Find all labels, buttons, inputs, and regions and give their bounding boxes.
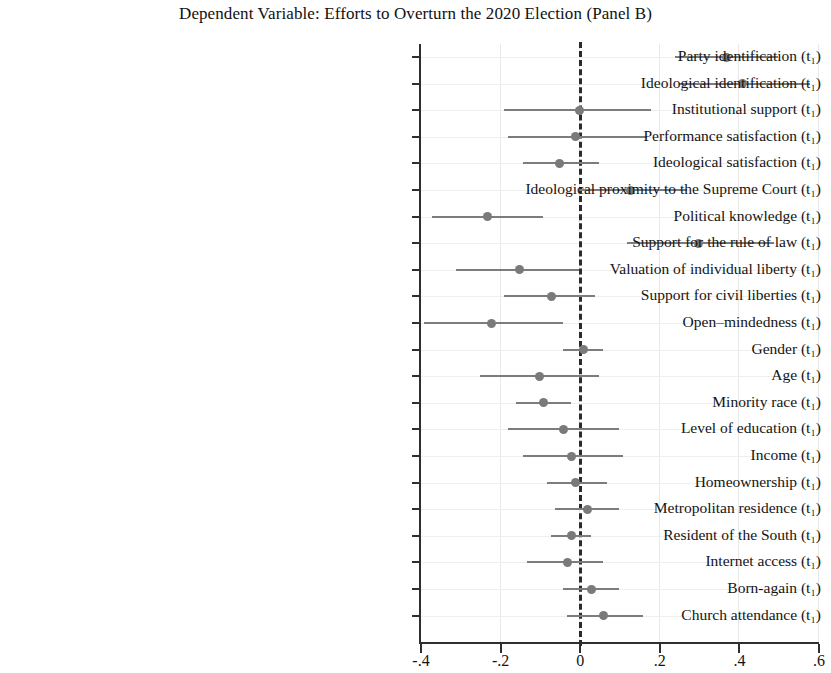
- y-axis-label: Resident of the South (t₁): [423, 527, 831, 543]
- y-axis-tick: [412, 136, 420, 138]
- y-axis-label: Political knowledge (t₁): [423, 208, 831, 224]
- y-axis-label: Open–mindedness (t₁): [423, 314, 831, 330]
- y-axis-tick: [412, 189, 420, 191]
- y-axis-label: Ideological proximity to the Supreme Cou…: [423, 181, 831, 197]
- y-axis-label: Income (t₁): [423, 447, 831, 463]
- y-axis-tick: [412, 56, 420, 58]
- y-axis-tick: [412, 455, 420, 457]
- coefficient-plot-figure: Dependent Variable: Efforts to Overturn …: [0, 0, 831, 673]
- y-axis-label: Ideological satisfaction (t₁): [423, 154, 831, 170]
- chart-title: Dependent Variable: Efforts to Overturn …: [0, 4, 831, 24]
- y-axis-tick: [412, 482, 420, 484]
- y-axis-label: Level of education (t₁): [423, 420, 831, 436]
- y-axis-line: [419, 44, 421, 644]
- y-axis-tick: [412, 216, 420, 218]
- x-axis-label: 0: [550, 652, 610, 670]
- y-axis-tick: [412, 322, 420, 324]
- y-axis-tick: [412, 109, 420, 111]
- y-axis-label: Performance satisfaction (t₁): [423, 128, 831, 144]
- y-axis-tick: [412, 162, 420, 164]
- y-axis-label: Institutional support (t₁): [423, 101, 831, 117]
- y-axis-tick: [412, 295, 420, 297]
- y-axis-label: Metropolitan residence (t₁): [423, 500, 831, 516]
- x-axis-label: .2: [630, 652, 690, 670]
- x-axis-label: -.4: [391, 652, 451, 670]
- y-axis-label: Internet access (t₁): [423, 553, 831, 569]
- y-axis-label: Valuation of individual liberty (t₁): [423, 261, 831, 277]
- x-axis-label: .4: [709, 652, 769, 670]
- y-axis-tick: [412, 508, 420, 510]
- y-axis-label: Party identification (t₁): [423, 48, 831, 64]
- y-axis-label: Age (t₁): [423, 367, 831, 383]
- y-axis-tick: [412, 269, 420, 271]
- y-axis-label: Support for civil liberties (t₁): [423, 287, 831, 303]
- y-axis-label: Born-again (t₁): [423, 580, 831, 596]
- y-axis-tick: [412, 83, 420, 85]
- y-axis-label: Homeownership (t₁): [423, 474, 831, 490]
- y-axis-tick: [412, 402, 420, 404]
- y-axis-label: Minority race (t₁): [423, 394, 831, 410]
- y-axis-label: Support for the rule of law (t₁): [423, 234, 831, 250]
- y-axis-label: Ideological identification (t₁): [423, 75, 831, 91]
- x-axis-label: .6: [789, 652, 831, 670]
- y-axis-label: Church attendance (t₁): [423, 607, 831, 623]
- y-axis-tick: [412, 615, 420, 617]
- y-axis-tick: [412, 588, 420, 590]
- y-axis-label: Gender (t₁): [423, 341, 831, 357]
- y-axis-tick: [412, 535, 420, 537]
- y-axis-tick: [412, 242, 420, 244]
- y-axis-tick: [412, 375, 420, 377]
- x-axis-label: -.2: [471, 652, 531, 670]
- x-axis-line: [419, 642, 819, 644]
- y-axis-tick: [412, 561, 420, 563]
- y-axis-tick: [412, 349, 420, 351]
- y-axis-tick: [412, 428, 420, 430]
